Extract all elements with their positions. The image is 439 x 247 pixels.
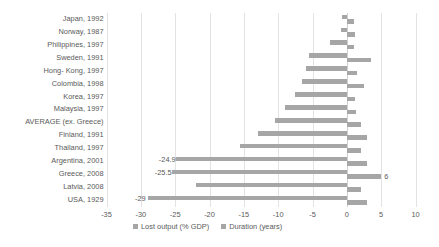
- bar: [347, 45, 354, 50]
- gridline: [141, 13, 142, 207]
- x-tick-label: -20: [196, 211, 224, 219]
- chart-legend: Lost output (% GDP)Duration (years): [133, 223, 282, 231]
- data-label: -25.5: [155, 169, 170, 177]
- legend-item[interactable]: Duration (years): [221, 223, 282, 231]
- data-label: -29: [131, 195, 146, 203]
- bar: [295, 92, 347, 97]
- bar: [347, 187, 361, 192]
- bar: [302, 79, 347, 84]
- bar: [347, 174, 381, 179]
- legend-label: Lost output (% GDP): [141, 223, 209, 231]
- bar: [347, 161, 368, 166]
- bar: [258, 131, 347, 136]
- gridline: [278, 13, 279, 207]
- bar: [285, 105, 347, 110]
- bar: [196, 183, 347, 188]
- legend-swatch-icon: [221, 224, 226, 229]
- x-tick-label: -30: [127, 211, 155, 219]
- x-tick-label: -10: [264, 211, 292, 219]
- x-tick-label: -25: [161, 211, 189, 219]
- gridline: [210, 13, 211, 207]
- bar: [347, 97, 355, 102]
- data-label: -24.9: [159, 156, 174, 164]
- gridline: [244, 13, 245, 207]
- category-label: Colombia, 1998: [52, 80, 104, 88]
- bar: [347, 200, 368, 205]
- category-label: Philippines, 1997: [47, 41, 103, 49]
- bar: [330, 40, 347, 45]
- bar: [275, 118, 347, 123]
- bar: [347, 84, 364, 89]
- bar: [148, 196, 347, 201]
- category-label: AVERAGE (ex. Greece): [25, 118, 103, 126]
- bar: [347, 135, 368, 140]
- x-tick-label: -5: [299, 211, 327, 219]
- bar-chart: Japan, 1992Norway, 1987Philippines, 1997…: [0, 0, 439, 247]
- data-label: 6: [384, 173, 388, 181]
- bar: [309, 53, 347, 58]
- legend-label: Duration (years): [229, 223, 282, 231]
- gridline: [175, 13, 176, 207]
- category-label: Korea, 1997: [63, 93, 103, 101]
- bar: [240, 144, 346, 149]
- x-tick-label: 5: [367, 211, 395, 219]
- gridline: [313, 13, 314, 207]
- bar: [347, 110, 356, 115]
- x-tick-label: 0: [333, 211, 361, 219]
- bar: [172, 170, 347, 175]
- category-label: USA, 1929: [68, 196, 104, 204]
- gridline: [416, 13, 417, 207]
- category-label: Norway, 1987: [58, 28, 103, 36]
- x-tick-label: 10: [402, 211, 430, 219]
- bar: [347, 122, 361, 127]
- bar: [176, 157, 347, 162]
- bar: [347, 32, 355, 37]
- category-label: Greece, 2008: [59, 170, 104, 178]
- gridline: [107, 13, 108, 207]
- category-label: Finland, 1991: [59, 131, 104, 139]
- category-label: Sweden, 1991: [56, 54, 103, 62]
- bar: [347, 148, 361, 153]
- category-label: Argentina, 2001: [51, 157, 103, 165]
- category-label: Thailand, 1997: [55, 144, 104, 152]
- bar: [347, 19, 354, 24]
- category-label: Malaysia, 1997: [54, 105, 104, 113]
- x-tick-label: -35: [93, 211, 121, 219]
- bar: [306, 66, 347, 71]
- category-label: Hong- Kong, 1997: [44, 67, 104, 75]
- legend-item[interactable]: Lost output (% GDP): [133, 223, 209, 231]
- bar: [347, 58, 371, 63]
- bar: [347, 71, 357, 76]
- category-label: Japan, 1992: [63, 15, 104, 23]
- category-label: Latvia, 2008: [63, 183, 103, 191]
- legend-swatch-icon: [133, 224, 138, 229]
- x-tick-label: -15: [230, 211, 258, 219]
